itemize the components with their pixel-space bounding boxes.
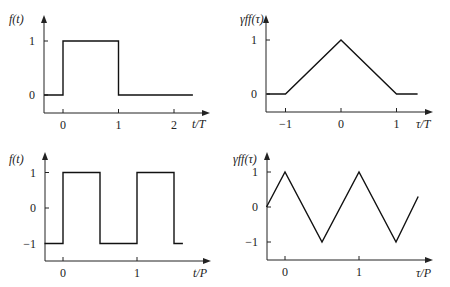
figure-canvas: 01201f(t)t/T −10101γff(τ)τ/T 01−101f(t)t… [0,0,450,287]
y-tick-label: −1 [245,235,258,249]
x-axis-label: τ/T [416,117,432,131]
x-tick-label: 0 [60,266,66,280]
y-axis-label: f(t) [9,152,24,166]
figure: 01201f(t)t/T −10101γff(τ)τ/T 01−101f(t)t… [0,0,450,287]
y-axis-arrow-icon [41,15,47,23]
x-tick-label: 1 [394,117,400,131]
y-tick-label: −1 [23,237,36,251]
data-curve [45,173,183,244]
plot-square-wave: 01−101f(t)t/P [9,152,211,280]
x-tick-label: 0 [338,117,344,131]
x-tick-label: 2 [171,118,177,132]
x-axis-label: τ/P [416,266,432,280]
data-curve [267,172,419,242]
x-tick-label: 0 [282,265,288,279]
y-axis-label: γff(τ) [233,152,257,166]
y-tick-label: 1 [29,34,35,48]
x-tick-label: 0 [60,118,66,132]
data-curve [44,41,193,95]
x-axis-arrow-icon [202,110,210,116]
y-tick-label: 0 [29,88,35,102]
y-axis-arrow-icon [263,15,269,23]
y-axis-arrow-icon [42,152,48,160]
x-axis-label: t/T [192,117,207,131]
x-tick-label: 1 [356,265,362,279]
plot-rect-pulse: 01201f(t)t/T [9,12,210,132]
plot-square-wave-autocorrelation: 01−101γff(τ)τ/P [233,152,433,280]
y-axis-label: γff(τ) [240,12,264,26]
x-axis-arrow-icon [425,257,433,263]
y-tick-label: 0 [30,201,36,215]
y-tick-label: 1 [30,166,36,180]
y-tick-label: 0 [252,200,258,214]
x-tick-label: 1 [116,118,122,132]
x-axis-arrow-icon [203,258,211,264]
y-tick-label: 0 [251,87,257,101]
x-tick-label: 1 [134,266,140,280]
x-tick-label: −1 [279,117,292,131]
y-axis-label: f(t) [9,12,24,26]
y-tick-label: 1 [251,33,257,47]
data-curve [267,40,418,94]
x-axis-label: t/P [193,266,208,280]
y-tick-label: 1 [252,165,258,179]
y-axis-arrow-icon [264,152,270,160]
x-axis-arrow-icon [425,109,433,115]
plot-rect-pulse-autocorrelation: −10101γff(τ)τ/T [240,12,433,131]
